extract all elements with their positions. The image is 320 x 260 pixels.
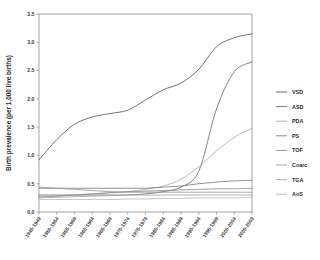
x-tick-label: 1950-1954 xyxy=(41,215,60,238)
x-tick-label: 1975-1979 xyxy=(130,215,149,238)
y-tick-label: 3.5 xyxy=(27,11,34,17)
y-tick-label: 0.5 xyxy=(27,181,34,187)
legend-label-tof: TOF xyxy=(292,147,303,153)
y-tick-label: 2.0 xyxy=(27,96,34,102)
y-tick-label: 0.0 xyxy=(27,209,34,215)
legend-label-coarc: Coarc xyxy=(292,162,307,168)
legend-label-pda: PDA xyxy=(292,118,303,124)
x-tick-label: 1990-1994 xyxy=(183,215,202,238)
line-chart: 0.00.51.01.52.02.53.03.5Birth prevalence… xyxy=(0,0,320,260)
y-tick-label: 1.0 xyxy=(27,152,34,158)
x-tick-label: 1945-1949 xyxy=(23,215,42,238)
series-line-ps xyxy=(39,180,252,188)
x-tick-label: 2005-2009 xyxy=(236,215,255,238)
series-line-aos xyxy=(39,197,252,199)
x-tick-label: 1960-1964 xyxy=(77,215,96,238)
y-tick-label: 1.5 xyxy=(27,124,34,130)
x-tick-label: 1995-1999 xyxy=(201,215,220,238)
x-tick-label: 1980-1984 xyxy=(148,215,167,238)
series-line-vsd xyxy=(39,34,252,160)
x-tick-label: 1955-1959 xyxy=(59,215,78,238)
legend-label-asd: ASD xyxy=(292,104,303,110)
x-tick-label: 1970-1974 xyxy=(112,215,131,238)
y-axis-title: Birth prevalence (per 1,000 live births) xyxy=(5,55,13,171)
chart-figure: 0.00.51.01.52.02.53.03.5Birth prevalence… xyxy=(0,0,320,260)
y-tick-label: 3.0 xyxy=(27,39,34,45)
x-tick-label: 1965-1969 xyxy=(94,215,113,238)
x-tick-label: 2000-2004 xyxy=(219,215,238,238)
legend-label-vsd: VSD xyxy=(292,89,303,95)
x-tick-label: 1985-1989 xyxy=(165,215,184,238)
legend-label-ps: PS xyxy=(292,133,300,139)
series-line-asd xyxy=(39,62,252,195)
legend-label-aos: AoS xyxy=(292,191,303,197)
series-line-pda xyxy=(39,128,252,196)
y-tick-label: 2.5 xyxy=(27,67,34,73)
legend-label-tga: TGA xyxy=(292,177,303,183)
